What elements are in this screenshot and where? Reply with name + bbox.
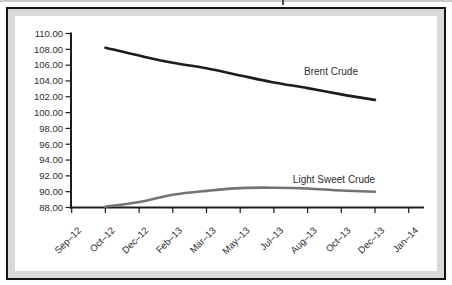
x-tick-label: Oct–13 — [323, 225, 352, 254]
y-tick-label: 90.00 — [39, 186, 63, 197]
y-tick-label: 88.00 — [39, 202, 63, 213]
y-tick-label: 96.00 — [39, 139, 63, 150]
y-tick-label: 92.00 — [39, 170, 63, 181]
x-tick-label: Jan–14 — [390, 225, 420, 255]
x-tick-label: May–13 — [220, 225, 252, 257]
y-tick-label: 102.00 — [34, 91, 63, 102]
series-line-light-sweet-crude — [105, 188, 375, 207]
oil-price-line-chart: 110.00108.00106.00104.00102.00100.0098.0… — [0, 0, 452, 285]
x-tick-label: Dec–13 — [355, 225, 386, 256]
x-tick-label: Oct–12 — [87, 225, 116, 254]
x-tick-label: Aug–13 — [288, 225, 319, 256]
y-tick-label: 100.00 — [34, 107, 63, 118]
figure-canvas: 110.00108.00106.00104.00102.00100.0098.0… — [0, 0, 452, 285]
y-tick-label: 110.00 — [35, 28, 63, 39]
y-tick-label: 104.00 — [34, 75, 63, 86]
series-label-brent-crude: Brent Crude — [304, 66, 358, 77]
x-tick-label: Dec–12 — [120, 225, 151, 256]
x-tick-label: Sep–12 — [52, 225, 83, 256]
y-tick-label: 98.00 — [39, 123, 63, 134]
y-tick-label: 106.00 — [34, 59, 63, 70]
y-tick-label: 108.00 — [34, 44, 63, 55]
series-label-light-sweet-crude: Light Sweet Crude — [293, 174, 376, 185]
x-tick-label: Feb–13 — [154, 225, 185, 256]
y-tick-label: 94.00 — [39, 154, 63, 165]
x-tick-label: Jul–13 — [258, 225, 286, 253]
x-tick-label: Mar–13 — [187, 225, 218, 256]
